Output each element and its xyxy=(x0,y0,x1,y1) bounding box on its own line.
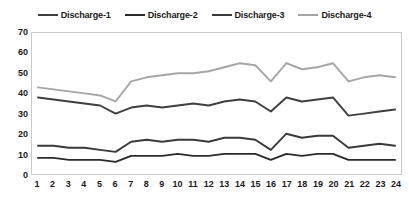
legend-swatch-icon xyxy=(38,14,58,16)
legend-item-3[interactable]: Discharge-3 xyxy=(212,10,285,20)
legend-item-4[interactable]: Discharge-4 xyxy=(298,10,371,20)
legend-label: Discharge-3 xyxy=(235,10,285,20)
x-tick-label: 22 xyxy=(360,179,370,190)
x-tick-label: 6 xyxy=(113,179,118,190)
y-axis: 010203040506070 xyxy=(0,32,28,175)
legend-swatch-icon xyxy=(212,14,232,16)
x-tick-label: 20 xyxy=(329,179,339,190)
x-tick-label: 10 xyxy=(172,179,182,190)
x-tick-label: 9 xyxy=(159,179,164,190)
y-tick-label: 10 xyxy=(0,150,28,159)
y-tick-label: 60 xyxy=(0,48,28,57)
legend-label: Discharge-4 xyxy=(321,10,371,20)
y-tick-label: 0 xyxy=(0,171,28,180)
y-tick-label: 50 xyxy=(0,68,28,77)
legend-swatch-icon xyxy=(125,14,145,16)
y-tick-label: 70 xyxy=(0,28,28,37)
series-line-1 xyxy=(38,97,395,115)
legend-swatch-icon xyxy=(298,14,318,16)
legend-item-2[interactable]: Discharge-2 xyxy=(125,10,198,20)
x-tick-label: 24 xyxy=(391,179,401,190)
x-tick-label: 11 xyxy=(188,179,198,190)
x-tick-label: 3 xyxy=(66,179,71,190)
x-tick-label: 8 xyxy=(144,179,149,190)
y-tick-label: 40 xyxy=(0,89,28,98)
x-tick-label: 4 xyxy=(81,179,86,190)
x-tick-label: 5 xyxy=(97,179,102,190)
legend-label: Discharge-1 xyxy=(61,10,111,20)
legend-label: Discharge-2 xyxy=(148,10,198,20)
x-tick-label: 14 xyxy=(235,179,245,190)
x-axis: 123456789101112131415161718192021222324 xyxy=(31,179,402,193)
x-tick-label: 13 xyxy=(219,179,229,190)
series-line-2 xyxy=(38,154,395,162)
x-tick-label: 1 xyxy=(34,179,39,190)
x-tick-label: 19 xyxy=(313,179,323,190)
chart-legend: Discharge-1Discharge-2Discharge-3Dischar… xyxy=(0,6,409,24)
x-tick-label: 15 xyxy=(251,179,261,190)
series-line-4 xyxy=(38,63,395,101)
plot-lines xyxy=(32,33,401,174)
x-tick-label: 21 xyxy=(344,179,354,190)
x-tick-label: 2 xyxy=(50,179,55,190)
y-tick-label: 30 xyxy=(0,109,28,118)
discharge-line-chart: Discharge-1Discharge-2Discharge-3Dischar… xyxy=(0,0,409,205)
x-tick-label: 17 xyxy=(282,179,292,190)
plot-area xyxy=(31,32,402,175)
x-tick-label: 12 xyxy=(204,179,214,190)
x-tick-label: 7 xyxy=(128,179,133,190)
y-tick-label: 20 xyxy=(0,130,28,139)
x-tick-label: 18 xyxy=(297,179,307,190)
x-tick-label: 16 xyxy=(266,179,276,190)
x-tick-label: 23 xyxy=(375,179,385,190)
series-line-3 xyxy=(38,134,395,152)
legend-item-1[interactable]: Discharge-1 xyxy=(38,10,111,20)
